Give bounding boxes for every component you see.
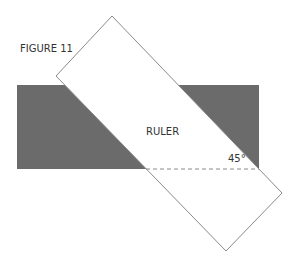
angle-label: 45° — [228, 153, 246, 164]
figure-diagram: FIGURE 11 RULER 45° — [0, 0, 297, 270]
figure-title: FIGURE 11 — [20, 43, 73, 54]
ruler-label: RULER — [146, 126, 179, 137]
